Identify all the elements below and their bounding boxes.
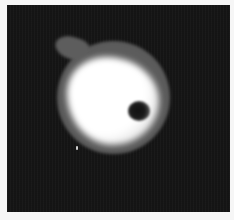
dark-inclusion bbox=[128, 101, 150, 121]
bright-speck bbox=[76, 146, 78, 150]
micrograph bbox=[7, 5, 230, 212]
